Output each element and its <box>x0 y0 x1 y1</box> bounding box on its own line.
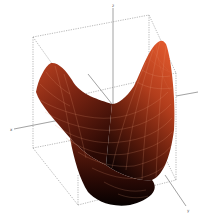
y-axis-label: y <box>187 208 190 213</box>
x-axis-line-right <box>176 92 198 96</box>
x-axis-label: x <box>10 127 13 132</box>
z-axis-label: z <box>112 3 114 8</box>
surface-plot: z x y <box>0 0 214 221</box>
saddle-surface <box>36 41 175 206</box>
